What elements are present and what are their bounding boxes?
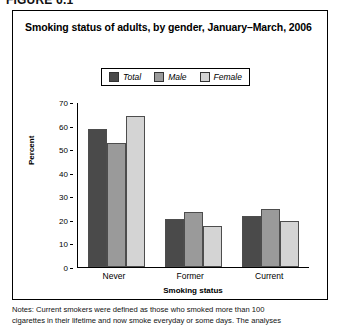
y-axis-ticks: 010203040506070 xyxy=(39,103,73,268)
y-tick-mark xyxy=(70,150,73,151)
note-line-2: cigarettes in their lifetime and now smo… xyxy=(12,316,328,327)
x-axis-title: Smoking status xyxy=(77,286,309,295)
y-tick-label: 70 xyxy=(59,99,68,108)
figure-label: FIGURE 6.1 xyxy=(6,0,73,7)
bar-current-total xyxy=(242,216,261,267)
bar-former-total xyxy=(165,219,184,267)
legend-item-male: Male xyxy=(154,72,186,82)
y-tick-mark xyxy=(70,268,73,269)
legend-item-female: Female xyxy=(200,72,242,82)
y-axis-title: Percent xyxy=(27,136,36,165)
y-tick-mark xyxy=(70,197,73,198)
bar-current-male xyxy=(261,209,280,267)
y-tick-mark xyxy=(70,174,73,175)
y-tick-label: 20 xyxy=(59,216,68,225)
bar-group-current xyxy=(242,103,299,267)
y-tick-mark xyxy=(70,127,73,128)
legend-swatch-icon xyxy=(154,72,164,82)
bar-former-male xyxy=(184,212,203,267)
plot-wrapper: Percent 010203040506070 NeverFormerCurre… xyxy=(25,103,317,288)
x-axis-label-current: Current xyxy=(255,271,283,281)
y-tick-label: 40 xyxy=(59,169,68,178)
y-tick-mark xyxy=(70,103,73,104)
bars-layer xyxy=(78,103,309,267)
y-tick-mark xyxy=(70,221,73,222)
legend-swatch-icon xyxy=(109,72,119,82)
y-tick-label: 30 xyxy=(59,193,68,202)
legend-item-total: Total xyxy=(109,72,141,82)
x-axis-label-former: Former xyxy=(176,271,203,281)
figure-notes: Notes: Current smokers were defined as t… xyxy=(12,305,328,326)
legend-label: Total xyxy=(123,72,141,82)
y-tick-label: 60 xyxy=(59,122,68,131)
x-axis-label-never: Never xyxy=(103,271,126,281)
chart-title: Smoking status of adults, by gender, Jan… xyxy=(25,21,312,33)
legend-label: Male xyxy=(168,72,186,82)
bar-current-female xyxy=(280,221,299,267)
x-axis-labels: NeverFormerCurrent xyxy=(77,271,309,281)
bar-group-never xyxy=(88,103,145,267)
chart-legend: TotalMaleFemale xyxy=(101,68,250,86)
y-tick-label: 50 xyxy=(59,146,68,155)
plot-area xyxy=(77,103,309,268)
y-tick-mark xyxy=(70,244,73,245)
bar-never-male xyxy=(107,143,126,267)
legend-swatch-icon xyxy=(200,72,210,82)
bar-never-total xyxy=(88,129,107,267)
bar-former-female xyxy=(203,226,222,267)
figure-box: Smoking status of adults, by gender, Jan… xyxy=(12,10,328,300)
y-tick-label: 0 xyxy=(64,264,68,273)
note-line-1: Notes: Current smokers were defined as t… xyxy=(12,305,328,316)
bar-never-female xyxy=(126,116,145,267)
legend-label: Female xyxy=(214,72,242,82)
y-tick-label: 10 xyxy=(59,240,68,249)
bar-group-former xyxy=(165,103,222,267)
